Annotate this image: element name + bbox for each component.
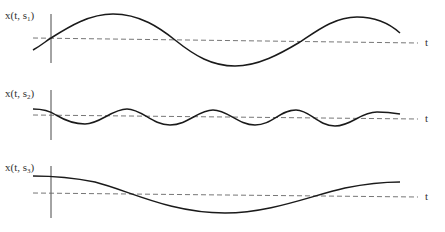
panel-s1-curve <box>33 14 400 66</box>
panel-s2: x(t, s2) t <box>5 87 428 140</box>
panel-s3-dashed-baseline <box>33 193 418 197</box>
panel-s3-xlabel: t <box>425 190 428 202</box>
panel-s1: x(t, s1) t <box>5 9 428 66</box>
panel-s2-xlabel: t <box>425 112 428 124</box>
panel-s3-curve <box>33 176 400 213</box>
panel-s3-ylabel: x(t, s3) <box>5 161 35 175</box>
sample-paths-diagram: x(t, s1) t x(t, s2) t x(t, s3) t <box>0 0 445 232</box>
panel-s2-curve <box>33 109 400 126</box>
panel-s2-ylabel: x(t, s2) <box>5 87 35 101</box>
panel-s1-dashed-baseline <box>33 38 418 43</box>
panel-s1-ylabel: x(t, s1) <box>5 9 35 23</box>
panel-s1-xlabel: t <box>425 36 428 48</box>
panel-s3: x(t, s3) t <box>5 161 428 218</box>
